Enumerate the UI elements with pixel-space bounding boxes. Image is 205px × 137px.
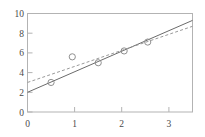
y-tick-label-4: 4: [19, 68, 24, 78]
dashed-fit-line: [28, 26, 193, 82]
x-axis-ticks: [28, 107, 169, 112]
y-tick-label-8: 8: [19, 29, 24, 39]
x-axis-tick-labels: 0 1 2 3: [25, 119, 171, 129]
data-point-marker: [69, 54, 75, 60]
plot-frame: [28, 14, 193, 113]
scatter-plot-with-fit-lines: 10 8 6 4 2 0 0 1 2 3: [0, 0, 205, 137]
y-axis-ticks: [28, 14, 33, 113]
y-tick-label-6: 6: [19, 48, 24, 58]
axes-frame-rect: [28, 14, 193, 113]
x-tick-label-0: 0: [25, 119, 30, 129]
solid-fit-line: [28, 20, 193, 92]
y-axis-tick-labels: 10 8 6 4 2 0: [15, 9, 25, 118]
y-tick-label-10: 10: [15, 9, 25, 19]
chart-container: 10 8 6 4 2 0 0 1 2 3: [0, 0, 205, 137]
data-series-layer: [28, 20, 193, 92]
y-tick-label-0: 0: [19, 108, 24, 118]
y-tick-label-2: 2: [19, 88, 24, 98]
x-tick-label-1: 1: [72, 119, 77, 129]
x-tick-label-3: 3: [167, 119, 172, 129]
x-tick-label-2: 2: [119, 119, 124, 129]
